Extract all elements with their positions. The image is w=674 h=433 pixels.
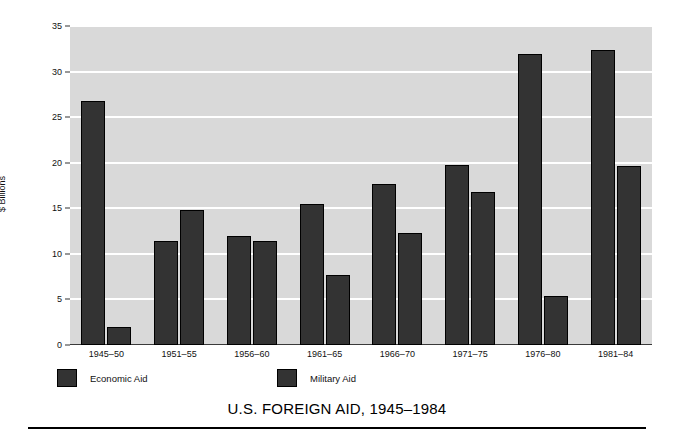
bar[interactable]: [107, 327, 131, 345]
y-axis-tick-label: 10: [52, 249, 62, 259]
legend-swatch: [277, 369, 297, 387]
bar[interactable]: [253, 241, 277, 345]
legend-label: Economic Aid: [90, 373, 148, 384]
legend-item[interactable]: Economic Aid: [57, 369, 148, 387]
x-axis-tick-label: 1961–65: [307, 349, 342, 359]
bar[interactable]: [180, 210, 204, 345]
bar-group: [300, 26, 350, 345]
x-axis-tick-labels: 1945–501951–551956–601961–651966–701971–…: [70, 349, 652, 363]
bar[interactable]: [398, 233, 422, 345]
bar-group: [591, 26, 641, 345]
y-axis-tick-label: 5: [57, 294, 62, 304]
bar[interactable]: [471, 192, 495, 345]
y-axis-tick-label: 35: [52, 21, 62, 31]
x-axis-tick-label: 1971–75: [453, 349, 488, 359]
bar[interactable]: [544, 296, 568, 345]
x-axis-tick-label: 1956–60: [234, 349, 269, 359]
bar-group: [81, 26, 131, 345]
bar[interactable]: [591, 50, 615, 345]
bar[interactable]: [445, 165, 469, 345]
x-axis-tick-label: 1966–70: [380, 349, 415, 359]
bar-group: [518, 26, 568, 345]
x-axis-tick-label: 1945–50: [89, 349, 124, 359]
chart-legend: Economic AidMilitary Aid: [57, 369, 377, 391]
plot-area: [70, 26, 652, 345]
bar[interactable]: [372, 184, 396, 345]
bar[interactable]: [227, 236, 251, 345]
title-divider: [28, 427, 646, 429]
y-axis-tick-label: 0: [57, 340, 62, 350]
x-axis-tick-label: 1951–55: [162, 349, 197, 359]
bar[interactable]: [81, 101, 105, 345]
x-axis-tick-label: 1981–84: [598, 349, 633, 359]
y-axis-title: $ Billions: [0, 176, 7, 212]
bar-group: [445, 26, 495, 345]
bar[interactable]: [617, 166, 641, 345]
legend-label: Military Aid: [310, 373, 356, 384]
legend-item[interactable]: Military Aid: [277, 369, 356, 387]
y-axis-tick-label: 30: [52, 67, 62, 77]
chart-title: U.S. FOREIGN AID, 1945–1984: [0, 400, 674, 417]
bar[interactable]: [300, 204, 324, 345]
y-axis-tick-label: 15: [52, 203, 62, 213]
legend-swatch: [57, 369, 77, 387]
bar-group: [372, 26, 422, 345]
bar-group: [227, 26, 277, 345]
x-axis-tick-label: 1976–80: [525, 349, 560, 359]
bar[interactable]: [326, 275, 350, 345]
y-axis: $ Billions 05101520253035: [0, 26, 70, 345]
chart-figure: $ Billions 05101520253035 1945–501951–55…: [0, 0, 674, 433]
bar[interactable]: [518, 54, 542, 345]
y-axis-tick-label: 20: [52, 158, 62, 168]
y-axis-tick-label: 25: [52, 112, 62, 122]
bar[interactable]: [154, 241, 178, 345]
bar-group: [154, 26, 204, 345]
